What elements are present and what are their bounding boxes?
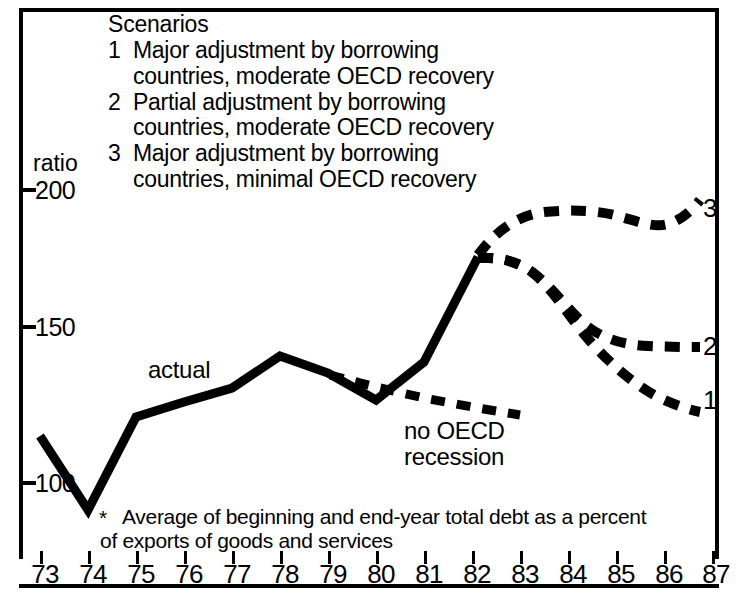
footnote-line2: of exports of goods and services (100, 529, 393, 552)
annotation-no-oecd-recession: no OECD recession (404, 418, 505, 470)
series-3-line (478, 200, 700, 255)
annotation-actual: actual (148, 356, 210, 384)
curve-label-2: 2 (703, 331, 717, 362)
x-ticklabel-85: 85 (607, 559, 634, 590)
x-ticklabel-82: 82 (463, 559, 490, 590)
x-ticklabel-79: 79 (319, 559, 346, 590)
x-ticklabel-75: 75 (127, 559, 154, 590)
x-ticklabel-78: 78 (271, 559, 298, 590)
annotation-no-oecd-recession-line2: recession (404, 444, 505, 470)
annotation-no-oecd-recession-line1: no OECD (404, 418, 505, 444)
x-ticklabel-83: 83 (511, 559, 538, 590)
x-ticklabel-74: 74 (79, 559, 106, 590)
series-actual-line (40, 257, 478, 510)
chart-figure: Scenarios 1 Major adjustment by borrowin… (0, 0, 739, 598)
footnote-asterisk: * (99, 506, 107, 530)
series-1-line (478, 258, 700, 412)
x-ticklabel-80: 80 (367, 559, 394, 590)
x-ticklabel-86: 86 (655, 559, 682, 590)
footnote-line1: Average of beginning and end-year total … (100, 505, 700, 529)
x-ticklabel-81: 81 (415, 559, 442, 590)
footnote: * Average of beginning and end-year tota… (100, 505, 700, 552)
x-ticklabel-76: 76 (175, 559, 202, 590)
x-ticklabel-84: 84 (559, 559, 586, 590)
x-ticklabel-77: 77 (223, 559, 250, 590)
x-ticklabel-73: 73 (31, 559, 58, 590)
curve-label-3: 3 (703, 193, 717, 224)
curve-label-1: 1 (703, 385, 717, 416)
x-ticklabel-87: 87 (702, 559, 729, 590)
